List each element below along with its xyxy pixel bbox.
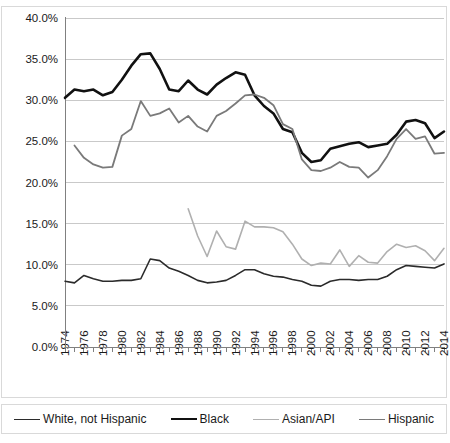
x-axis-tick-label: 2004 — [343, 330, 355, 356]
x-axis-tick-label: 1982 — [135, 330, 147, 356]
series-line-asian-api — [188, 209, 444, 267]
x-axis-tick-label: 1980 — [116, 330, 128, 356]
y-axis-tick-labels: 0.0%5.0%10.0%15.0%20.0%25.0%30.0%35.0%40… — [25, 12, 58, 353]
x-axis-tick-label: 2012 — [419, 330, 431, 356]
x-axis-tick-label: 1976 — [78, 330, 90, 356]
x-axis-tick-label: 1990 — [211, 330, 223, 356]
legend-item-label: Asian/API — [282, 413, 335, 425]
legend-item[interactable]: White, not Hispanic — [14, 413, 146, 425]
legend-item[interactable]: Black — [171, 413, 229, 425]
legend-color-swatch — [253, 419, 279, 420]
gridlines — [65, 18, 444, 347]
legend-item-label: White, not Hispanic — [43, 413, 146, 425]
x-axis-tick-label: 2002 — [324, 330, 336, 356]
x-axis-tick-label: 1998 — [286, 330, 298, 356]
x-axis-tick-label: 2006 — [362, 330, 374, 356]
y-axis-tick-label: 15.0% — [25, 218, 58, 230]
y-axis-tick-label: 5.0% — [32, 300, 58, 312]
legend-color-swatch — [171, 418, 197, 420]
series-line-black — [65, 53, 444, 162]
x-axis-tick-label: 2014 — [438, 330, 450, 356]
x-axis-tick-labels: 1974197619781980198219841986198819901992… — [59, 330, 450, 356]
legend-color-swatch — [14, 419, 40, 420]
x-axis-tick-label: 1984 — [154, 330, 166, 356]
y-axis-tick-label: 25.0% — [25, 135, 58, 147]
legend-color-swatch — [359, 419, 385, 420]
x-axis-tick-label: 2010 — [400, 330, 412, 356]
x-axis-tick-label: 2000 — [305, 330, 317, 356]
x-axis-tick-label: 1992 — [230, 330, 242, 356]
x-axis-tick-label: 1978 — [97, 330, 109, 356]
y-axis-tick-label: 35.0% — [25, 53, 58, 65]
y-axis-tick-label: 20.0% — [25, 177, 58, 189]
y-axis-tick-label: 30.0% — [25, 94, 58, 106]
x-axis-tick-label: 2008 — [381, 330, 393, 356]
y-axis-tick-label: 10.0% — [25, 259, 58, 271]
chart-container: 0.0%5.0%10.0%15.0%20.0%25.0%30.0%35.0%40… — [0, 0, 450, 443]
x-axis-tick-label: 1988 — [192, 330, 204, 356]
y-axis-tick-label: 0.0% — [32, 341, 58, 353]
legend-item-label: Hispanic — [388, 413, 434, 425]
legend-item[interactable]: Asian/API — [253, 413, 335, 425]
chart-legend: White, not HispanicBlackAsian/APIHispani… — [1, 404, 447, 434]
line-chart-plot: 0.0%5.0%10.0%15.0%20.0%25.0%30.0%35.0%40… — [0, 0, 450, 400]
data-series — [65, 53, 444, 286]
series-line-hispanic — [74, 94, 444, 177]
legend-item[interactable]: Hispanic — [359, 413, 434, 425]
y-axis-tick-label: 40.0% — [25, 12, 58, 24]
x-axis-tick-label: 1996 — [267, 330, 279, 356]
series-line-white-not-hispanic — [65, 259, 444, 286]
legend-item-label: Black — [200, 413, 229, 425]
x-axis-tick-label: 1994 — [249, 330, 261, 356]
x-axis-tick-label: 1986 — [173, 330, 185, 356]
